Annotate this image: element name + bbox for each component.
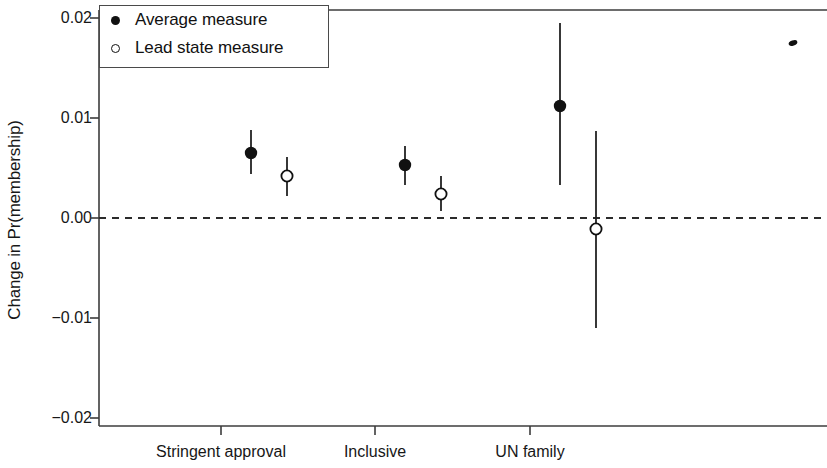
data-point-open[interactable] xyxy=(281,170,292,181)
legend-item-average-measure[interactable]: Average measure xyxy=(100,6,328,34)
filled-circle-icon xyxy=(111,16,129,25)
plot-area xyxy=(0,0,827,468)
data-point-open[interactable] xyxy=(435,188,446,199)
data-point-filled[interactable] xyxy=(554,100,566,112)
stray-mark xyxy=(788,39,798,47)
data-point-filled[interactable] xyxy=(399,159,411,171)
legend-item-lead-state-measure[interactable]: Lead state measure xyxy=(100,34,328,62)
data-point-open[interactable] xyxy=(590,223,601,234)
legend: Average measure Lead state measure xyxy=(99,5,329,68)
legend-label: Lead state measure xyxy=(129,38,283,58)
legend-label: Average measure xyxy=(129,10,267,30)
figure-container: Change in Pr(membership) 0.020.010.00−0.… xyxy=(0,0,827,468)
data-point-filled[interactable] xyxy=(245,147,257,159)
open-circle-icon xyxy=(111,44,129,53)
